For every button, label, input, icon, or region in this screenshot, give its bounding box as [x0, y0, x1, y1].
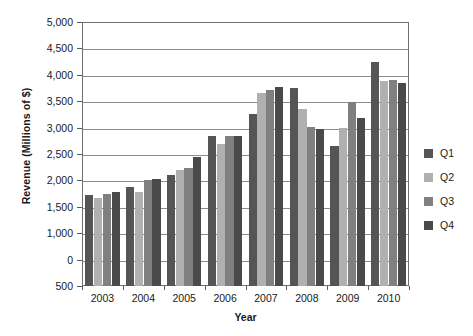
bar	[85, 195, 93, 286]
y-tick-label: 1,500	[1, 201, 73, 213]
bar	[298, 109, 306, 286]
bar	[135, 192, 143, 286]
chart-legend: Q1Q2Q3Q4	[424, 141, 454, 237]
legend-item[interactable]: Q4	[424, 213, 454, 237]
bar	[208, 136, 216, 286]
y-tick-label: 2,000	[1, 174, 73, 186]
bar	[330, 146, 338, 286]
x-tick-mark	[123, 286, 124, 290]
bar	[94, 198, 102, 286]
y-tick-mark	[77, 22, 82, 23]
legend-item[interactable]: Q2	[424, 165, 454, 189]
y-tick-mark	[77, 207, 82, 208]
legend-item[interactable]: Q3	[424, 189, 454, 213]
bar	[176, 170, 184, 286]
legend-label: Q2	[440, 171, 454, 183]
legend-label: Q4	[440, 219, 454, 231]
gridline	[83, 49, 408, 50]
x-tick-label: 2010	[359, 292, 419, 304]
y-tick-mark	[77, 101, 82, 102]
x-tick-mark	[246, 286, 247, 290]
legend-swatch-icon	[424, 173, 433, 182]
y-tick-label: 0	[1, 254, 73, 266]
bar	[225, 136, 233, 286]
x-tick-mark	[82, 286, 83, 290]
x-tick-mark	[368, 286, 369, 290]
y-tick-label: 3,500	[1, 95, 73, 107]
bar	[348, 102, 356, 286]
bar	[371, 62, 379, 286]
bar	[167, 175, 175, 286]
y-tick-label: 1,000	[1, 227, 73, 239]
bar	[290, 88, 298, 286]
bar	[275, 87, 283, 286]
legend-swatch-icon	[424, 149, 433, 158]
x-tick-mark	[286, 286, 287, 290]
y-tick-label: 4,500	[1, 42, 73, 54]
bar	[357, 118, 365, 286]
y-tick-mark	[77, 260, 82, 261]
y-tick-label: 3,000	[1, 122, 73, 134]
legend-swatch-icon	[424, 197, 433, 206]
bar	[112, 192, 120, 286]
y-tick-label: 2,500	[1, 148, 73, 160]
x-tick-mark	[164, 286, 165, 290]
x-tick-mark	[409, 286, 410, 290]
bar	[307, 127, 315, 286]
gridline	[83, 102, 408, 103]
bar	[389, 80, 397, 286]
y-tick-mark	[77, 154, 82, 155]
bar	[126, 187, 134, 286]
x-tick-mark	[327, 286, 328, 290]
bar	[339, 128, 347, 286]
bar	[257, 93, 265, 286]
legend-item[interactable]: Q1	[424, 141, 454, 165]
y-tick-mark	[77, 75, 82, 76]
y-tick-mark	[77, 180, 82, 181]
x-tick-mark	[205, 286, 206, 290]
bar	[184, 168, 192, 286]
y-tick-label: 500	[1, 280, 73, 292]
bar	[380, 81, 388, 286]
bar	[152, 179, 160, 286]
legend-label: Q1	[440, 147, 454, 159]
y-tick-label: 5,000	[1, 16, 73, 28]
bar	[217, 144, 225, 286]
bar	[266, 90, 274, 286]
bar	[316, 129, 324, 286]
bar	[234, 136, 242, 286]
y-tick-mark	[77, 48, 82, 49]
bar	[103, 194, 111, 286]
bar	[193, 157, 201, 286]
legend-swatch-icon	[424, 221, 433, 230]
y-tick-label: 4,000	[1, 69, 73, 81]
bar	[249, 114, 257, 286]
bar	[144, 180, 152, 286]
bar-chart-figure: Revenue (Millions of $) 5,0004,5004,0003…	[0, 0, 473, 336]
gridline	[83, 76, 408, 77]
y-tick-mark	[77, 128, 82, 129]
bar	[398, 83, 406, 286]
legend-label: Q3	[440, 195, 454, 207]
x-axis-title: Year	[82, 311, 409, 323]
y-tick-mark	[77, 233, 82, 234]
